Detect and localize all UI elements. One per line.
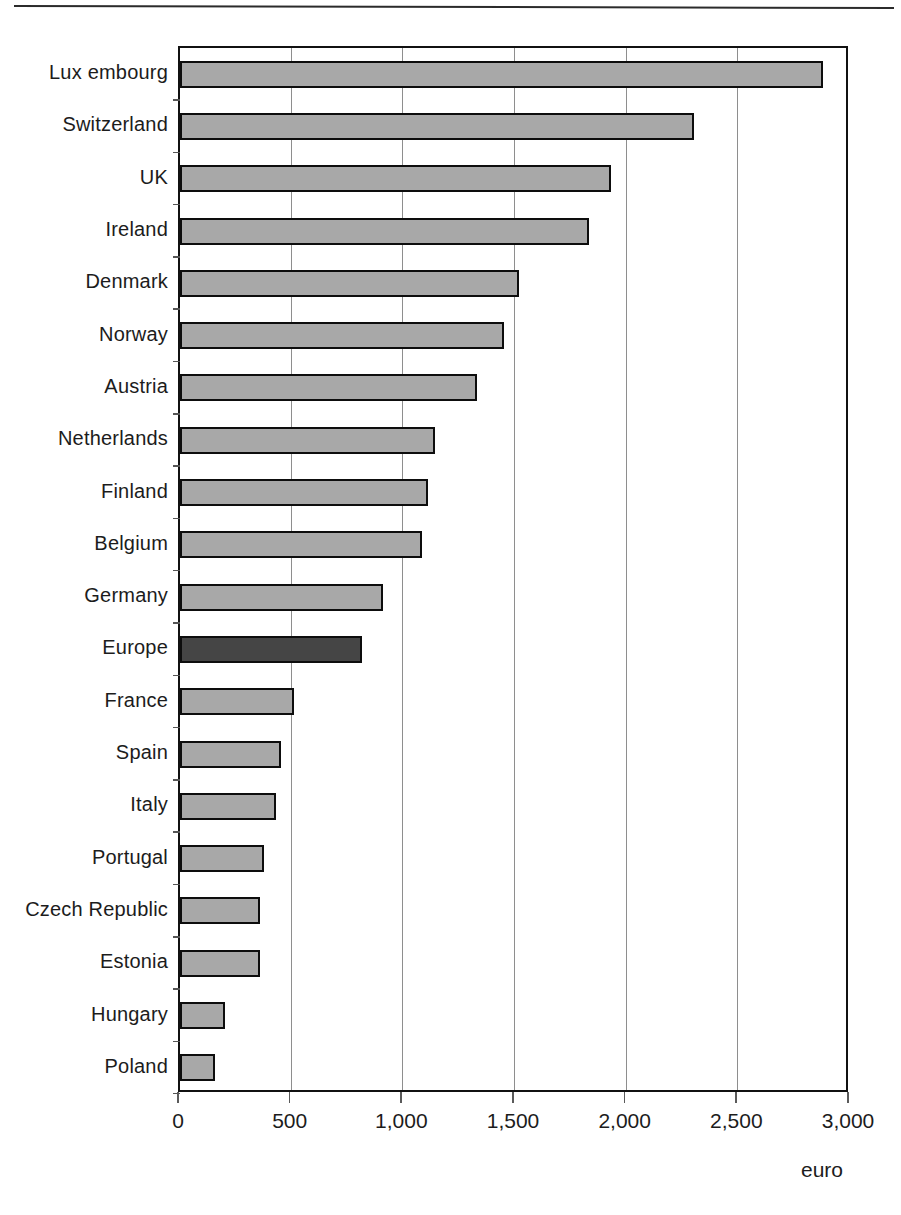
bar-row	[180, 937, 846, 989]
x-axis-unit-label: euro	[801, 1158, 843, 1182]
category-label-netherlands: Netherlands	[0, 427, 168, 449]
bar-row	[180, 623, 846, 675]
x-tick-mark	[289, 1092, 291, 1103]
category-tick-mark	[173, 884, 180, 886]
bar-germany	[180, 584, 383, 611]
plot-area	[178, 46, 848, 1092]
category-label-belgium: Belgium	[0, 532, 168, 554]
category-label-ireland: Ireland	[0, 218, 168, 240]
x-tick-label-2000: 2,000	[598, 1108, 651, 1134]
bar-ireland	[180, 218, 589, 245]
bar-row	[180, 466, 846, 518]
bar-czech-republic	[180, 897, 260, 924]
category-label-estonia: Estonia	[0, 950, 168, 972]
bar-row	[180, 571, 846, 623]
category-tick-mark	[173, 204, 180, 206]
bar-row	[180, 257, 846, 309]
category-label-switzerland: Switzerland	[0, 113, 168, 135]
category-tick-mark	[173, 1041, 180, 1043]
category-label-poland: Poland	[0, 1055, 168, 1077]
bar-row	[180, 676, 846, 728]
category-label-finland: Finland	[0, 480, 168, 502]
bar-row	[180, 362, 846, 414]
bar-france	[180, 688, 294, 715]
x-tick-mark	[847, 1092, 849, 1103]
category-label-europe: Europe	[0, 636, 168, 658]
category-label-spain: Spain	[0, 741, 168, 763]
bar-row	[180, 1042, 846, 1094]
bar-europe	[180, 636, 362, 663]
category-tick-mark	[173, 936, 180, 938]
x-tick-mark	[400, 1092, 402, 1103]
category-tick-mark	[173, 465, 180, 467]
bar-austria	[180, 374, 477, 401]
category-tick-mark	[173, 152, 180, 154]
bar-finland	[180, 479, 428, 506]
bar-norway	[180, 322, 504, 349]
x-tick-mark	[177, 1092, 179, 1103]
category-tick-mark	[173, 361, 180, 363]
bar-row	[180, 100, 846, 152]
bar-portugal	[180, 845, 264, 872]
bar-row	[180, 153, 846, 205]
bar-estonia	[180, 950, 260, 977]
category-label-czech-republic: Czech Republic	[0, 898, 168, 920]
bar-belgium	[180, 531, 422, 558]
bar-row	[180, 414, 846, 466]
bar-netherlands	[180, 427, 435, 454]
category-tick-mark	[173, 779, 180, 781]
x-tick-label-1500: 1,500	[487, 1108, 540, 1134]
category-label-lux-embourg: Lux embourg	[0, 61, 168, 83]
category-label-denmark: Denmark	[0, 270, 168, 292]
category-tick-mark	[173, 831, 180, 833]
bar-row	[180, 780, 846, 832]
category-label-hungary: Hungary	[0, 1003, 168, 1025]
category-label-italy: Italy	[0, 793, 168, 815]
bar-row	[180, 728, 846, 780]
x-tick-mark	[512, 1092, 514, 1103]
category-tick-mark	[173, 675, 180, 677]
x-tick-label-0: 0	[172, 1108, 184, 1134]
bar-row	[180, 989, 846, 1041]
bar-chart-figure: Lux embourgSwitzerlandUKIrelandDenmarkNo…	[0, 0, 901, 1215]
bar-row	[180, 519, 846, 571]
category-tick-mark	[173, 622, 180, 624]
bar-row	[180, 833, 846, 885]
bar-row	[180, 310, 846, 362]
bar-row	[180, 48, 846, 100]
x-tick-label-500: 500	[272, 1108, 307, 1134]
bar-uk	[180, 165, 611, 192]
category-tick-mark	[173, 256, 180, 258]
bar-row	[180, 205, 846, 257]
category-tick-mark	[173, 570, 180, 572]
category-tick-mark	[173, 99, 180, 101]
bar-denmark	[180, 270, 519, 297]
bar-spain	[180, 741, 281, 768]
category-label-norway: Norway	[0, 323, 168, 345]
bar-poland	[180, 1054, 215, 1081]
category-tick-mark	[173, 727, 180, 729]
category-tick-mark	[173, 988, 180, 990]
x-tick-mark	[735, 1092, 737, 1103]
category-label-france: France	[0, 689, 168, 711]
bar-switzerland	[180, 113, 694, 140]
bar-row	[180, 885, 846, 937]
bar-hungary	[180, 1002, 225, 1029]
category-tick-mark	[173, 413, 180, 415]
category-axis-labels: Lux embourgSwitzerlandUKIrelandDenmarkNo…	[0, 46, 168, 1092]
bar-lux-embourg	[180, 61, 823, 88]
x-tick-label-3000: 3,000	[822, 1108, 875, 1134]
x-tick-label-1000: 1,000	[375, 1108, 428, 1134]
bar-italy	[180, 793, 276, 820]
x-axis-tick-labels: 05001,0001,5002,0002,5003,000	[0, 1108, 901, 1148]
x-tick-label-2500: 2,500	[710, 1108, 763, 1134]
category-label-austria: Austria	[0, 375, 168, 397]
category-label-germany: Germany	[0, 584, 168, 606]
category-label-portugal: Portugal	[0, 846, 168, 868]
category-label-uk: UK	[0, 166, 168, 188]
x-tick-mark	[624, 1092, 626, 1103]
category-tick-mark	[173, 308, 180, 310]
category-tick-mark	[173, 518, 180, 520]
